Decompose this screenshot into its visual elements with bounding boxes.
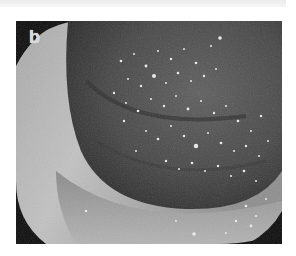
endoscopy-scene xyxy=(16,21,282,244)
panel-label: b xyxy=(29,27,40,48)
endoscopy-image: b xyxy=(16,21,282,244)
top-border-strip xyxy=(0,0,286,7)
